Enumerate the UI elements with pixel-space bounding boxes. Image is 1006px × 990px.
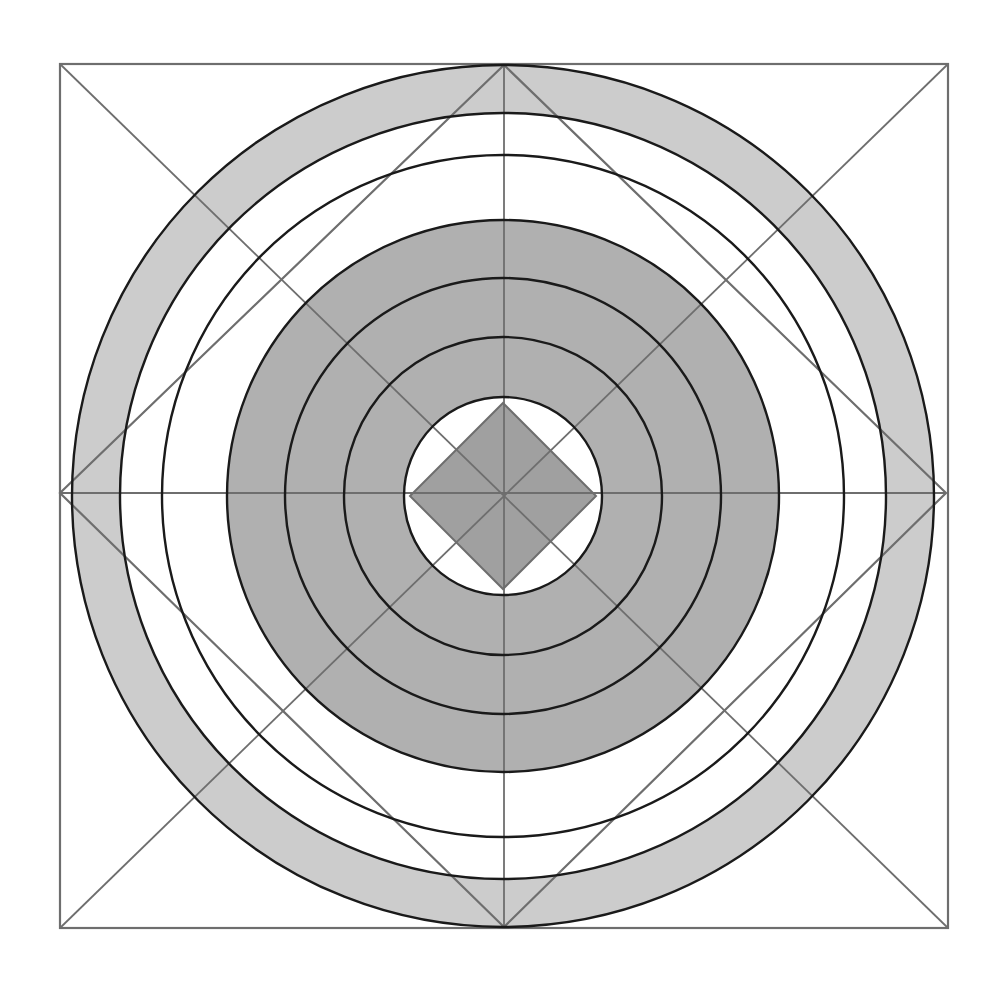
figure-canvas: [0, 0, 1006, 990]
geometric-figure-root: Concentric Circle Mandala with Inscribed…: [0, 0, 1006, 990]
